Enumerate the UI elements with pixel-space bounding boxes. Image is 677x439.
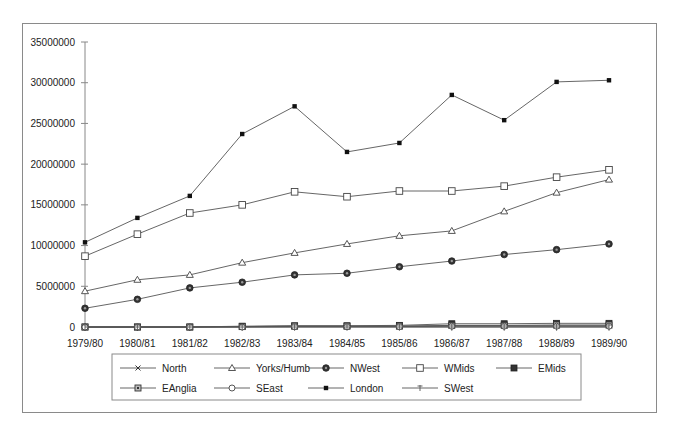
x-tick-label: 1979/80 [67,338,104,349]
y-tick-label: 15000000 [31,199,76,210]
series-london [83,78,611,244]
legend-label: London [350,383,383,394]
x-tick-label: 1989/90 [591,338,628,349]
x-tick-label: 1983/84 [277,338,314,349]
x-tick-label: 1988/89 [539,338,576,349]
y-tick-label: 20000000 [31,159,76,170]
x-tick-label: 1987/88 [486,338,523,349]
y-tick-label: 5000000 [36,281,75,292]
legend-label: EMids [538,363,566,374]
y-tick-label: 30000000 [31,77,76,88]
line-chart: 0500000010000000150000002000000025000000… [23,24,658,414]
x-tick-label: 1981/82 [172,338,209,349]
y-tick-label: 25000000 [31,118,76,129]
x-tick-label: 1982/83 [224,338,261,349]
x-tick-label: 1984/85 [329,338,366,349]
legend-label: EAnglia [162,383,197,394]
x-tick-label: 1985/86 [381,338,418,349]
x-tick-label: 1986/87 [434,338,471,349]
legend-label: SEast [256,383,283,394]
y-axis: 0500000010000000150000002000000025000000… [31,37,89,333]
legend-label: WMids [444,363,475,374]
x-tick-label: 1980/81 [119,338,156,349]
legend-label: NWest [350,363,380,374]
series-nwest [82,241,613,312]
y-tick-label: 35000000 [31,37,76,48]
y-tick-label: 0 [69,322,75,333]
legend-label: SWest [444,383,473,394]
legend-label: Yorks/Humb [256,363,311,374]
chart-frame: 0500000010000000150000002000000025000000… [22,23,657,413]
y-tick-label: 10000000 [31,240,76,251]
legend-label: North [162,363,186,374]
series-layer [82,78,613,330]
legend: NorthYorks/HumbNWestWMidsEMidsEAngliaSEa… [112,354,581,400]
